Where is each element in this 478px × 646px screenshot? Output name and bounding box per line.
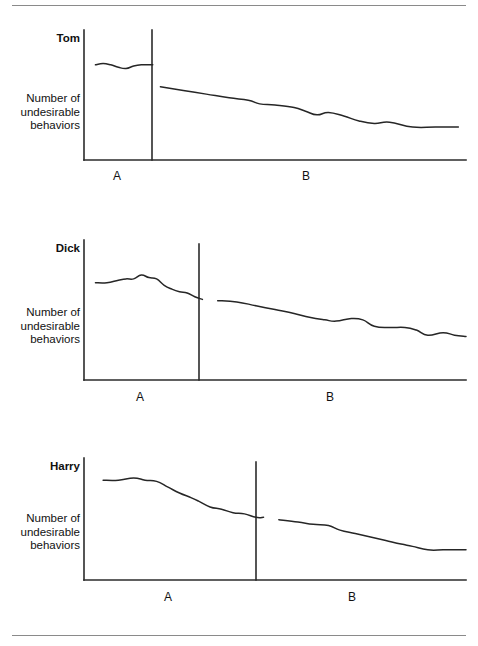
data-line-dick-baseline (95, 275, 202, 299)
plot-area-tom: A B (0, 20, 478, 220)
bottom-divider-rule (12, 635, 466, 636)
data-line-harry-intervention (279, 520, 466, 551)
phase-label-a-dick: A (136, 390, 144, 404)
plot-area-harry: A B (0, 440, 478, 640)
phase-label-a-tom: A (113, 169, 121, 183)
top-divider-rule (12, 5, 466, 6)
data-line-harry-baseline (103, 478, 263, 518)
data-line-tom-intervention (160, 87, 458, 128)
phase-label-b-dick: B (326, 390, 334, 404)
phase-label-a-harry: A (164, 590, 172, 604)
plot-area-dick: A B (0, 230, 478, 430)
data-line-dick-intervention (218, 301, 466, 337)
phase-label-b-harry: B (348, 590, 356, 604)
data-line-tom-baseline (95, 64, 152, 69)
panel-dick: Dick Number of undesirable behaviors A B (0, 230, 478, 430)
panel-tom: Tom Number of undesirable behaviors A B (0, 20, 478, 220)
phase-label-b-tom: B (302, 169, 310, 183)
panel-harry: Harry Number of undesirable behaviors A … (0, 440, 478, 640)
multiple-baseline-figure: Tom Number of undesirable behaviors A B … (0, 0, 478, 646)
